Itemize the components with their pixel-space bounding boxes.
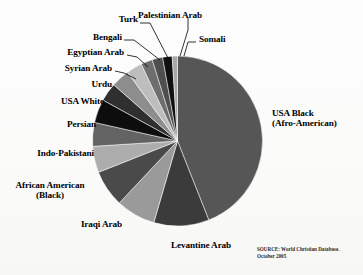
slice-label-usa-white: USA White bbox=[26, 96, 104, 106]
leader-line-palestinian-arab bbox=[180, 18, 188, 56]
slice-label-indo-pakistani: Indo-Pakistani bbox=[8, 148, 94, 158]
slice-label-bengali: Bengali bbox=[62, 32, 122, 42]
source-note-line1: SOURCE: World Christian Database. bbox=[257, 246, 340, 253]
slice-label-levantine-arab: Levantine Arab bbox=[171, 240, 231, 250]
leader-line-bengali bbox=[124, 40, 160, 60]
slice-label-african-american-line1: African American bbox=[15, 180, 84, 190]
slice-label-somali: Somali bbox=[199, 34, 225, 44]
slice-label-usa-black-line2: (Afro-American) bbox=[272, 118, 337, 128]
slice-label-egyptian-arab: Egyptian Arab bbox=[34, 47, 124, 57]
chart-area: Palestinian Arab Turk Somali Bengali Egy… bbox=[0, 0, 363, 275]
slice-label-urdu: Urdu bbox=[45, 79, 112, 89]
slice-label-iraqi-arab: Iraqi Arab bbox=[50, 219, 122, 229]
slice-label-persian: Persian bbox=[24, 119, 96, 129]
slice-label-palestinian-arab: Palestinian Arab bbox=[138, 10, 202, 20]
slice-label-usa-black-line1: USA Black bbox=[272, 108, 314, 118]
pie-chart-svg bbox=[0, 0, 363, 275]
source-note: SOURCE: World Christian Database. Octobe… bbox=[257, 246, 340, 260]
pie-chart-figure: Palestinian Arab Turk Somali Bengali Egy… bbox=[0, 0, 363, 275]
slice-label-african-american-line2: (Black) bbox=[36, 190, 64, 200]
leader-line-turk bbox=[140, 23, 168, 58]
source-note-line2: October 2005 bbox=[257, 253, 340, 260]
slice-label-syrian-arab: Syrian Arab bbox=[33, 63, 112, 73]
leader-line-somali bbox=[184, 42, 196, 56]
pie-slices-group bbox=[93, 56, 263, 226]
slice-label-african-american: African American (Black) bbox=[4, 180, 96, 201]
slice-label-turk: Turk bbox=[86, 14, 138, 24]
slice-label-usa-black: USA Black (Afro-American) bbox=[272, 108, 360, 129]
